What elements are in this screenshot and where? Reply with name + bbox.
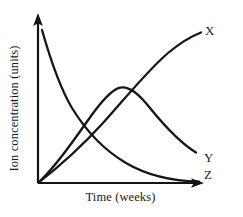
curve-label-x: X bbox=[205, 23, 215, 38]
x-axis-title: Time (weeks) bbox=[38, 190, 203, 205]
y-axis-title: Ion concentration (units) bbox=[4, 0, 24, 217]
curve-label-z: Z bbox=[204, 167, 212, 182]
curve-label-y: Y bbox=[204, 150, 214, 165]
plot-area: X Y Z bbox=[0, 0, 243, 217]
curve-series-y bbox=[39, 87, 197, 182]
chart-figure: X Y Z Ion concentration (units) Time (we… bbox=[0, 0, 243, 217]
